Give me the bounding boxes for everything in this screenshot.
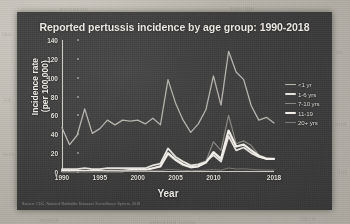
y-axis-tick-label: 120 [47, 55, 58, 62]
y-axis-tick-label: 140 [47, 37, 58, 44]
y-axis-tick-label: 80 [51, 93, 58, 100]
x-axis-tick-label: 2005 [168, 174, 182, 181]
x-axis-ticks: 199019952000200520102018 [62, 174, 274, 186]
legend-item[interactable]: 7-10 yrs [285, 99, 332, 109]
background-word: for [338, 168, 347, 176]
legend-label: 20+ yrs [298, 119, 318, 126]
y-axis-tick-label: 100 [47, 74, 58, 81]
y-axis-tick-label: 20 [51, 150, 58, 157]
background-word: 2018 [300, 215, 316, 223]
legend-item[interactable]: 11-19 [285, 109, 332, 119]
background-word: was [3, 150, 15, 158]
chart-legend: <1 yr1-6 yrs7-10 yrs11-1920+ yrs [285, 80, 332, 128]
background-word: vaccine [230, 4, 254, 12]
source-note: Source: CDC, National Notifiable Disease… [22, 202, 140, 206]
x-axis-tick-label: 1990 [55, 174, 69, 181]
x-axis-tick-label: 2000 [130, 174, 144, 181]
series-line [62, 51, 274, 144]
x-axis-title: Year [62, 188, 274, 199]
legend-label: <1 yr [298, 81, 311, 88]
series-line [62, 131, 274, 172]
legend-label: 1-6 yrs [298, 91, 316, 98]
x-axis-tick-label: 1995 [93, 174, 107, 181]
chart-title: Reported pertussis incidence by age grou… [17, 21, 332, 33]
chart-slide-panel: Reported pertussis incidence by age grou… [17, 12, 332, 210]
legend-item[interactable]: 20+ yrs [285, 118, 332, 128]
y-axis-tick-label: 40 [51, 131, 58, 138]
legend-line-swatch [285, 112, 296, 114]
legend-label: 11-19 [298, 110, 313, 117]
background-word: health [40, 216, 60, 224]
plot-area [62, 40, 274, 172]
legend-line-swatch [285, 93, 296, 95]
background-word: in [336, 48, 342, 56]
legend-line-swatch [285, 103, 296, 104]
background-word: of [4, 96, 11, 104]
legend-line-swatch [285, 122, 296, 123]
legend-line-swatch [285, 84, 296, 85]
x-axis-tick-label: 2010 [206, 174, 220, 181]
background-word: reported cases [150, 218, 195, 224]
series-line [62, 115, 274, 171]
legend-item[interactable]: 1-6 yrs [285, 90, 332, 100]
background-word: the [2, 30, 12, 38]
legend-label: 7-10 yrs [298, 100, 320, 107]
x-axis-tick-label: 2018 [267, 174, 281, 181]
series-lines [62, 40, 274, 172]
background-word: and [335, 120, 346, 128]
legend-item[interactable]: <1 yr [285, 80, 332, 90]
y-axis-ticks: 020406080100120140 [33, 40, 61, 172]
y-axis-tick-label: 60 [51, 112, 58, 119]
